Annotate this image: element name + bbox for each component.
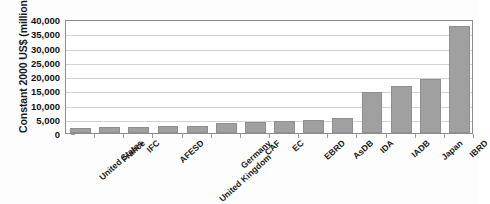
x-axis-category-label: IFC — [145, 138, 162, 155]
x-axis-category-label: AFESD — [178, 138, 206, 165]
bar — [303, 120, 324, 133]
y-axis-tick-label: 5,000 — [10, 114, 60, 125]
plot-area — [65, 20, 473, 134]
x-axis-tick-mark — [473, 134, 474, 138]
x-axis-category-label: IADB — [409, 138, 431, 159]
bar — [99, 127, 120, 133]
bar — [449, 26, 470, 133]
x-axis-category-label: EC — [290, 138, 306, 153]
bar — [216, 123, 237, 133]
bar — [70, 128, 91, 133]
bar — [245, 122, 266, 133]
y-axis-tick-labels: 40,00035,00030,00025,00020,00015,00010,0… — [10, 20, 60, 134]
x-axis-category-label: AsDB — [351, 138, 375, 161]
bar — [362, 92, 383, 133]
x-axis-category-label: Japan — [439, 138, 464, 162]
y-axis-tick-label: 35,000 — [10, 29, 60, 40]
y-axis-tick-label: 30,000 — [10, 43, 60, 54]
y-axis-tick-label: 0 — [10, 129, 60, 140]
bar — [332, 118, 353, 133]
bar — [158, 126, 179, 133]
x-axis-category-label: IDA — [378, 138, 396, 155]
x-axis-category-label: EBRD — [322, 138, 347, 162]
bar — [420, 79, 441, 133]
bar — [187, 126, 208, 133]
x-axis-category-labels: United StatesFranceIFCAFESDUnited Kingdo… — [65, 138, 473, 200]
bar — [128, 127, 149, 133]
y-axis-tick-label: 25,000 — [10, 57, 60, 68]
y-axis-tick-label: 40,000 — [10, 15, 60, 26]
bar — [274, 121, 295, 133]
bars-group — [66, 21, 472, 133]
x-axis-category-label: IBRD — [467, 138, 489, 159]
y-axis-tick-label: 15,000 — [10, 86, 60, 97]
y-axis-tick-label: 10,000 — [10, 100, 60, 111]
bar — [391, 86, 412, 133]
y-axis-tick-label: 20,000 — [10, 72, 60, 83]
